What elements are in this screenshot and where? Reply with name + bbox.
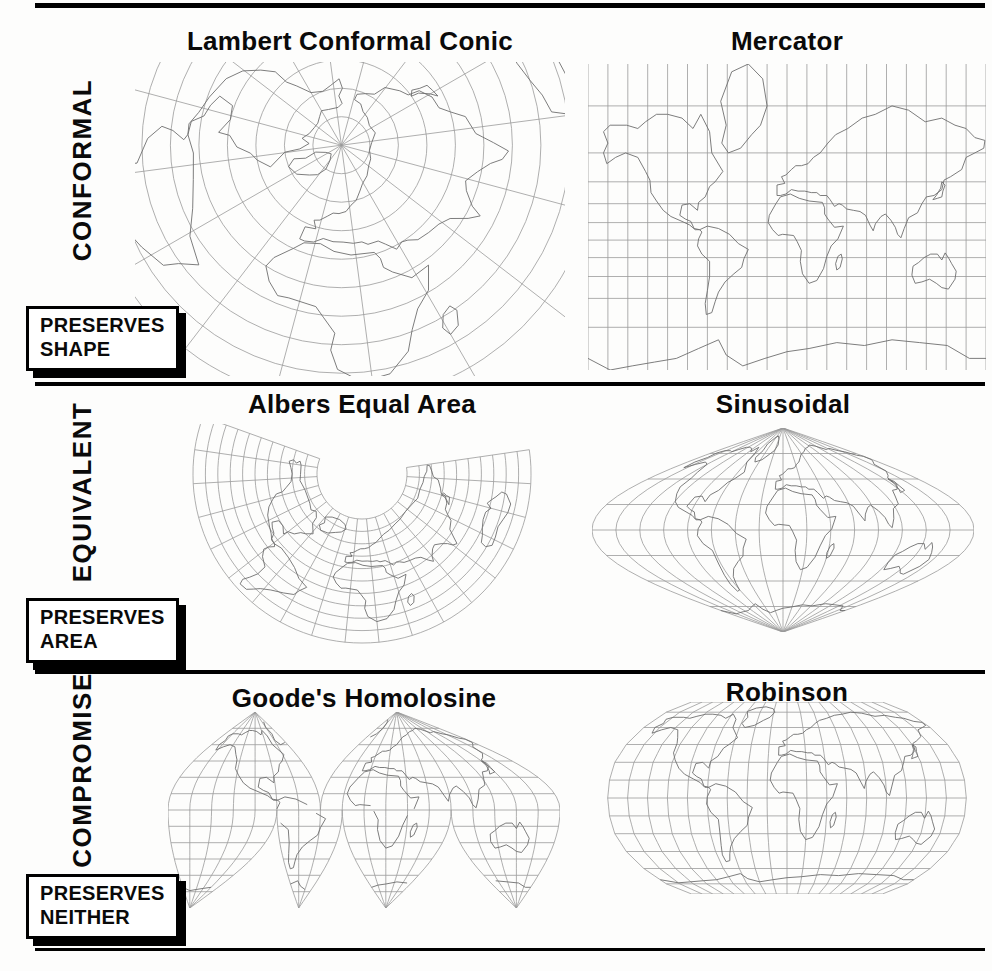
row-category-equivalent: EQUIVALENT (67, 402, 98, 583)
map-albers (168, 424, 556, 656)
row-divider-bar-2 (35, 670, 985, 674)
map-mercator (588, 64, 986, 370)
projection-comparison-figure: CONFORMAL Lambert Conformal Conic Mercat… (0, 0, 992, 971)
preserves-box-line: PRESERVES (40, 881, 165, 905)
preserves-box-line: SHAPE (40, 337, 165, 361)
row-category-conformal: CONFORMAL (67, 79, 98, 261)
preserves-box-line: AREA (40, 629, 165, 653)
panel-title-sinusoidal: Sinusoidal (592, 389, 974, 420)
row-divider-bar-1 (35, 382, 985, 386)
top-rule-bar (35, 3, 985, 8)
panel-title-goode: Goode's Homolosine (168, 683, 560, 714)
panel-title-mercator: Mercator (588, 26, 986, 57)
panel-title-lambert: Lambert Conformal Conic (135, 26, 565, 57)
map-goode (168, 712, 560, 908)
preserves-box-line: NEITHER (40, 905, 165, 929)
row-category-compromise: COMPROMISE (67, 672, 98, 868)
panel-title-albers: Albers Equal Area (168, 389, 556, 420)
preserves-box-area: PRESERVES AREA (26, 598, 179, 663)
map-lambert (135, 62, 565, 376)
map-robinson (604, 702, 970, 894)
preserves-box-neither: PRESERVES NEITHER (26, 874, 179, 939)
preserves-box-line: PRESERVES (40, 605, 165, 629)
preserves-box-line: PRESERVES (40, 313, 165, 337)
preserves-box-shape: PRESERVES SHAPE (26, 306, 179, 371)
bottom-rule-bar (35, 948, 985, 951)
map-sinusoidal (592, 428, 974, 632)
